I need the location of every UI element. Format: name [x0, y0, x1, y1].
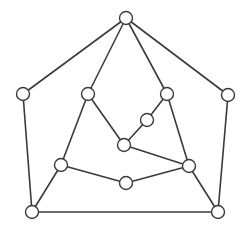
node-mid-small [141, 114, 154, 127]
edge-outer-right-bottom-right [218, 95, 228, 212]
node-top [120, 12, 133, 25]
edge-lower-left-bottom-mid [61, 165, 126, 183]
node-inner-left [82, 88, 95, 101]
edge-inner-left-lower-left [61, 94, 88, 165]
node-bottom-mid [120, 177, 133, 190]
edge-center-lower-right [124, 145, 189, 166]
node-bottom-left [26, 206, 39, 219]
edge-bottom-mid-lower-right [126, 166, 189, 183]
node-lower-left [55, 159, 68, 172]
edge-outer-left-bottom-left [23, 94, 32, 212]
edge-top-outer-left [23, 18, 126, 94]
edge-top-inner-left [88, 18, 126, 94]
edge-lower-left-bottom-left [32, 165, 61, 212]
node-center [118, 139, 131, 152]
node-outer-left [17, 88, 30, 101]
node-inner-right [161, 88, 174, 101]
edge-top-outer-right [126, 18, 228, 95]
edge-inner-right-lower-right [167, 94, 189, 166]
node-lower-right [183, 160, 196, 173]
graph-diagram [0, 0, 245, 232]
edge-top-inner-right [126, 18, 167, 94]
edge-lower-right-bottom-right [189, 166, 218, 212]
node-outer-right [222, 89, 235, 102]
node-bottom-right [212, 206, 225, 219]
edge-inner-left-center [88, 94, 124, 145]
